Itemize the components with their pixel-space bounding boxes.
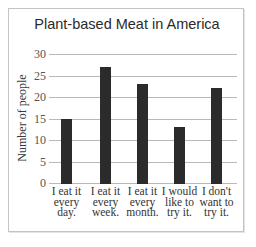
bar [61,119,72,185]
y-tick-label: 25 [28,70,46,82]
x-tick-label-line: I would [160,186,200,197]
bar [174,127,185,184]
y-tick-label: 15 [28,113,46,125]
x-tick-label-line: week. [86,207,126,218]
x-tick-label-line: try it. [197,207,237,218]
y-tick-label: 0 [28,177,46,189]
x-tick-label-line: day. [47,207,87,218]
x-tick-label: I don'twant totry it. [197,186,237,218]
bar [137,84,148,184]
y-tick-label: 10 [28,134,46,146]
y-axis-label: Number of people [15,58,29,178]
x-tick-label: I eat iteveryweek. [86,186,126,218]
x-tick-label-line: I don't [197,186,237,197]
x-tick-label-line: try it. [160,207,200,218]
chart-title: Plant-based Meat in America [8,16,246,32]
x-tick-label: I wouldlike totry it. [160,186,200,218]
bar [211,88,222,184]
x-tick-label: I eat iteveryday. [47,186,87,218]
x-tick-label-line: month. [123,207,163,218]
gridline [49,76,237,77]
y-tick-label: 30 [28,48,46,60]
y-tick-label: 5 [28,156,46,168]
y-tick-label: 20 [28,91,46,103]
bar [100,67,111,184]
x-tick-label: I eat iteverymonth. [123,186,163,218]
gridline [49,54,237,55]
x-tick-label-line: I eat it [86,186,126,197]
x-tick-label-line: I eat it [47,186,87,197]
x-tick-label-line: I eat it [123,186,163,197]
